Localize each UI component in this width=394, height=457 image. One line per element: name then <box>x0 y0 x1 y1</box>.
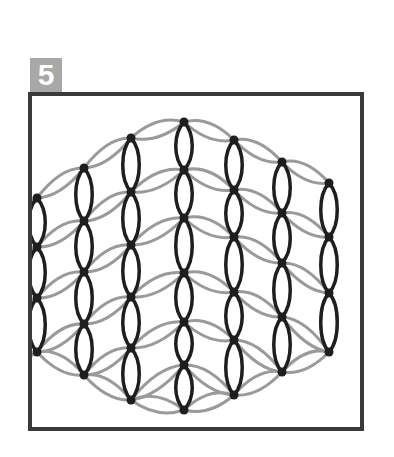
knit-stitch <box>176 122 184 170</box>
stitch-node <box>325 179 334 188</box>
knit-stitch <box>29 298 37 352</box>
stitch-node <box>127 188 136 197</box>
stitch-node <box>127 344 136 353</box>
knitting-stitch-diagram <box>0 0 394 457</box>
stitch-node <box>180 214 189 223</box>
stitch-node <box>278 209 287 218</box>
stitch-node <box>325 289 334 298</box>
stitch-node <box>127 134 136 143</box>
stitch-node <box>230 186 239 195</box>
knit-stitch <box>184 218 192 273</box>
knit-stitch <box>29 198 37 247</box>
stitch-node <box>80 371 89 380</box>
purl-strand <box>10 352 37 377</box>
stitch-node <box>80 320 89 329</box>
stitch-node <box>80 164 89 173</box>
stitch-node <box>180 361 189 370</box>
knit-stitch <box>321 293 329 352</box>
knit-stitch <box>29 247 37 298</box>
stitch-node <box>180 166 189 175</box>
stitch-node <box>230 288 239 297</box>
stitch-node <box>33 294 42 303</box>
stitch-node <box>80 217 89 226</box>
purl-strand <box>131 400 184 413</box>
stitch-node <box>33 243 42 252</box>
stitch-node <box>230 233 239 242</box>
knit-stitch <box>329 237 337 293</box>
stitch-node <box>127 293 136 302</box>
stitch-node <box>180 406 189 415</box>
stitch-node <box>80 268 89 277</box>
stitch-node <box>230 136 239 145</box>
stitch-node <box>325 233 334 242</box>
stitch-node <box>33 348 42 357</box>
stitch-node <box>33 194 42 203</box>
stitch-node <box>127 241 136 250</box>
stitch-node <box>180 318 189 327</box>
stitch-node <box>230 391 239 400</box>
stitch-node <box>127 396 136 405</box>
stitch-node <box>230 336 239 345</box>
stitch-node <box>278 158 287 167</box>
stitch-node <box>278 259 287 268</box>
stitch-node <box>180 118 189 127</box>
stitch-node <box>180 269 189 278</box>
knit-stitch <box>329 183 337 237</box>
stitch-node <box>325 348 334 357</box>
stitch-node <box>278 368 287 377</box>
stitch-node <box>278 313 287 322</box>
knit-stitch <box>329 293 337 352</box>
